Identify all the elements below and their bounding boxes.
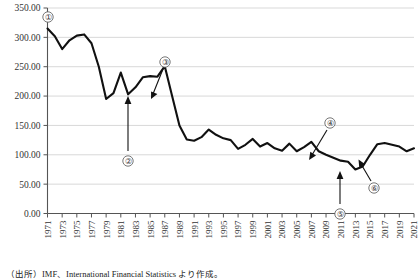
y-axis-tick-label: 350.00 xyxy=(14,3,40,13)
x-axis-tick-label: 1997 xyxy=(233,220,243,239)
callout-label-4: ④ xyxy=(327,119,334,128)
x-axis-tick-label: 2019 xyxy=(395,220,405,239)
x-axis-tick-label: 2009 xyxy=(321,220,331,239)
annotation-marker-1: ① xyxy=(43,12,53,22)
y-axis-tick-label: 150.00 xyxy=(14,121,40,131)
x-axis-tick-label: 1983 xyxy=(131,220,141,239)
gridlines xyxy=(48,8,415,184)
y-axis-tick-label: 50.00 xyxy=(19,180,41,190)
x-axis-tick-label: 2005 xyxy=(292,220,302,239)
x-axis-tick-label: 1987 xyxy=(160,220,170,239)
x-axis-tick-label: 2001 xyxy=(263,221,273,239)
source-note: （出所）IMF、International Financial Statisti… xyxy=(6,267,223,279)
x-axis-tick-labels: 1971197319751977197919811983198519871989… xyxy=(43,220,420,239)
y-axis-ticks xyxy=(44,8,48,214)
line-chart: 0.0050.00100.00150.00200.00250.00300.003… xyxy=(0,0,420,280)
x-axis-tick-label: 2003 xyxy=(277,220,287,239)
callout-arrowhead-4 xyxy=(309,152,316,160)
callout-label-5: ⑤ xyxy=(337,210,344,219)
x-axis-tick-label: 1977 xyxy=(87,220,97,239)
callout-arrowhead-5 xyxy=(337,171,344,179)
callout-label-6: ⑥ xyxy=(371,184,378,193)
y-axis-tick-label: 0.00 xyxy=(24,209,41,219)
annotation-marker-5: ⑤ xyxy=(335,171,345,219)
y-axis-tick-label: 200.00 xyxy=(14,91,40,101)
callout-label-3: ③ xyxy=(162,58,169,67)
x-axis-tick-label: 1999 xyxy=(248,220,258,239)
chart-container: 0.0050.00100.00150.00200.00250.00300.003… xyxy=(0,0,420,280)
x-axis-tick-label: 2013 xyxy=(351,220,361,239)
x-axis-tick-label: 1971 xyxy=(43,221,53,239)
callout-label-2: ② xyxy=(125,157,132,166)
annotation-marker-2: ② xyxy=(123,96,133,166)
annotation-layer: ① ② ③ ④ xyxy=(43,12,379,219)
y-axis-tick-label: 300.00 xyxy=(14,33,40,43)
x-axis-tick-label: 2011 xyxy=(336,221,346,239)
x-axis-tick-label: 2007 xyxy=(307,220,317,239)
x-axis-tick-label: 1993 xyxy=(204,220,214,239)
annotation-marker-6: ⑥ xyxy=(359,160,380,194)
x-axis-ticks xyxy=(48,214,415,218)
x-axis-tick-label: 2021 xyxy=(409,221,419,239)
x-axis-tick-label: 1979 xyxy=(102,220,112,239)
x-axis-tick-label: 1975 xyxy=(72,220,82,239)
callout-arrowhead-3 xyxy=(151,91,157,99)
x-axis-tick-label: 2017 xyxy=(380,220,390,239)
x-axis-tick-label: 1991 xyxy=(190,221,200,239)
y-axis-tick-labels: 0.0050.00100.00150.00200.00250.00300.003… xyxy=(14,3,40,219)
callout-arrowhead-2 xyxy=(125,96,132,104)
x-axis-tick-label: 1989 xyxy=(175,220,185,239)
y-axis-tick-label: 250.00 xyxy=(14,62,40,72)
x-axis-tick-label: 1995 xyxy=(219,220,229,239)
callout-label-1: ① xyxy=(45,13,52,22)
data-series-line xyxy=(48,29,415,170)
x-axis-tick-label: 2015 xyxy=(365,220,375,239)
x-axis-tick-label: 1981 xyxy=(116,221,126,239)
callout-arrow-3 xyxy=(153,69,163,94)
x-axis-tick-label: 1973 xyxy=(58,220,68,239)
y-axis-tick-label: 100.00 xyxy=(14,150,40,160)
callout-arrow-6 xyxy=(361,164,371,181)
x-axis-tick-label: 1985 xyxy=(146,220,156,239)
